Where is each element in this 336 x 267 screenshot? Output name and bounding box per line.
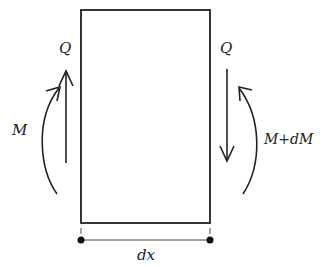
shear-force-left-arrow-icon <box>59 71 73 163</box>
dimension-line-dx <box>78 228 214 244</box>
width-dx-label: dx <box>137 248 155 263</box>
shear-force-left-label: Q <box>59 41 71 56</box>
beam-element <box>81 10 210 223</box>
moment-left-label: M <box>12 123 27 138</box>
dimension-right-dot-icon <box>207 237 214 244</box>
dimension-left-dot-icon <box>78 237 85 244</box>
beam-element-diagram: Q Q M M+dM dx <box>0 0 336 267</box>
shear-force-right-arrow-icon <box>220 69 234 161</box>
moment-left-arc-icon <box>42 87 60 194</box>
shear-force-right-label: Q <box>220 41 232 56</box>
moment-right-label: M+dM <box>264 132 313 146</box>
moment-right-arc-icon <box>239 87 257 194</box>
